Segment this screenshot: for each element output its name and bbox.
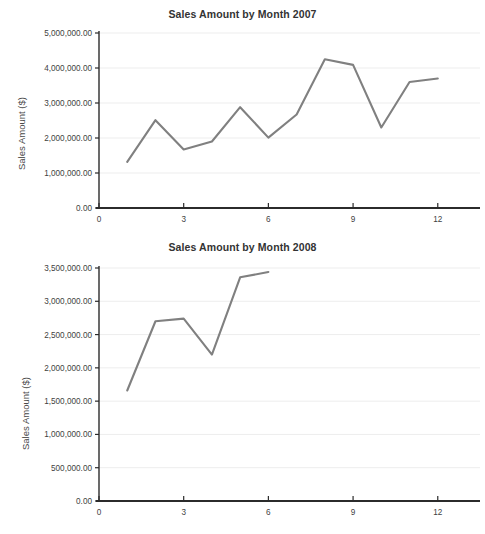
x-axis-tick-label: 12 (433, 215, 443, 224)
y-axis-tick-label: 2,000,000.00 (44, 134, 92, 143)
y-axis-tick-label: 5,000,000.00 (44, 29, 92, 38)
chart-panel-2008: Sales Amount by Month 2008 Sales Amount … (0, 235, 485, 534)
x-axis-tick-label: 9 (351, 508, 356, 517)
x-axis-tick-label: 12 (433, 508, 443, 517)
y-axis-tick-label: 4,000,000.00 (44, 64, 92, 73)
y-axis-tick-label: 1,500,000.00 (44, 397, 92, 406)
y-axis-tick-label: 3,000,000.00 (44, 99, 92, 108)
y-axis-tick-label: 3,000,000.00 (44, 297, 92, 306)
x-axis-tick-label: 6 (266, 508, 271, 517)
plot-area-2007: 0.001,000,000.002,000,000.003,000,000.00… (0, 0, 485, 235)
y-axis-tick-label: 1,000,000.00 (44, 430, 92, 439)
series-line (127, 59, 438, 162)
y-axis-tick-label: 3,500,000.00 (44, 264, 92, 273)
x-axis-tick-label: 6 (266, 215, 271, 224)
x-axis-tick-label: 9 (351, 215, 356, 224)
y-axis-tick-label: 2,500,000.00 (44, 331, 92, 340)
y-axis-tick-label: 1,000,000.00 (44, 169, 92, 178)
chart-panel-2007: Sales Amount by Month 2007 Sales Amount … (0, 0, 485, 235)
y-axis-tick-label: 0.00 (76, 497, 92, 506)
x-axis-tick-label: 0 (97, 508, 102, 517)
y-axis-tick-label: 0.00 (76, 204, 92, 213)
x-axis-tick-label: 3 (181, 215, 186, 224)
series-line (127, 272, 268, 391)
x-axis-tick-label: 3 (181, 508, 186, 517)
plot-area-2008: 0.00500,000.001,000,000.001,500,000.002,… (0, 235, 485, 534)
y-axis-tick-label: 500,000.00 (51, 464, 92, 473)
x-axis-tick-label: 0 (97, 215, 102, 224)
y-axis-tick-label: 2,000,000.00 (44, 364, 92, 373)
